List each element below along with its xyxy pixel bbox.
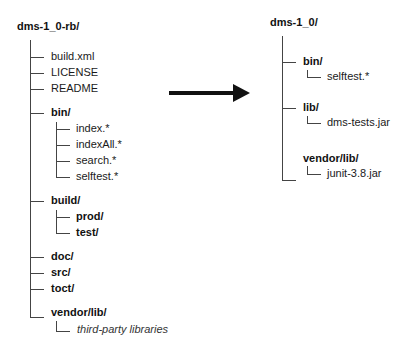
connector [30,289,44,290]
lib-subtrunk-line [307,116,308,123]
file-readme: README [51,82,98,95]
connector [56,233,70,234]
bin-subtrunk-line [56,122,57,177]
right-folder-lib: lib/ [303,101,319,114]
connector [30,89,44,90]
right-root-label: dms-1_0/ [270,16,318,29]
file-build-xml: build.xml [51,50,94,63]
right-file-selftest: selftest.* [327,70,369,83]
file-index: index.* [76,122,110,135]
connector [30,317,44,318]
right-folder-vendor-lib: vendor/lib/ [303,152,359,165]
vendor-subtrunk-line [307,166,308,174]
folder-test: test/ [76,226,99,239]
file-selftest: selftest.* [76,170,118,183]
connector [30,57,44,58]
connector [307,77,321,78]
folder-vendor-lib: vendor/lib/ [51,306,107,319]
connector [307,123,321,124]
connector [30,257,44,258]
folder-bin: bin/ [51,106,71,119]
right-folder-bin: bin/ [303,55,323,68]
right-file-junit-jar: junit-3.8.jar [327,167,381,180]
connector [56,331,70,332]
folder-toct: toct/ [51,282,74,295]
bin-subtrunk-line [307,70,308,77]
left-root-label: dms-1_0-rb/ [17,20,79,33]
file-search: search.* [76,154,116,167]
connector [307,174,321,175]
connector [282,108,296,109]
right-file-dms-tests-jar: dms-tests.jar [327,116,390,129]
vendor-subtrunk-line [56,321,57,331]
connector [56,217,70,218]
connector [30,201,44,202]
left-trunk-line [30,40,31,318]
connector [30,113,44,114]
folder-doc: doc/ [51,250,74,263]
connector [56,161,70,162]
connector [56,177,70,178]
folder-build: build/ [51,194,80,207]
connector [282,62,296,63]
connector [30,273,44,274]
file-indexall: indexAll.* [76,138,122,151]
third-party-libraries-label: third-party libraries [77,323,168,336]
connector [30,73,44,74]
folder-prod: prod/ [76,210,104,223]
build-subtrunk-line [56,210,57,233]
file-license: LICENSE [51,66,98,79]
folder-src: src/ [51,266,71,279]
connector [56,145,70,146]
connector [282,180,296,181]
connector [56,129,70,130]
